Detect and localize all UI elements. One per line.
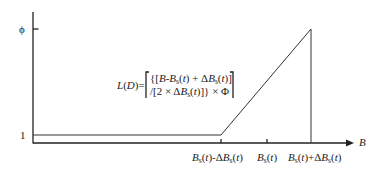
x-tick-label-lower: Bs(t)-ΔBs(t) bbox=[192, 151, 243, 165]
x-tick-label-upper: Bs(t)+ΔBs(t) bbox=[288, 151, 342, 165]
formula-lhs: L(D)= bbox=[116, 79, 145, 92]
y-tick-label-one: 1 bbox=[20, 129, 26, 141]
formula-line-numerator: {[B-Bs(t) + ΔBs(t)] bbox=[150, 72, 232, 86]
x-axis-arrow-icon bbox=[346, 140, 354, 147]
x-tick-label-center: Bs(t) bbox=[257, 151, 277, 165]
x-axis-label: B bbox=[359, 136, 366, 148]
formula-left-bracket bbox=[146, 72, 149, 98]
y-tick-label-phi: ϕ bbox=[19, 23, 25, 35]
formula-annotation: L(D)= {[B-Bs(t) + ΔBs(t)] /[2 × ΔBs(t)]}… bbox=[116, 72, 233, 99]
formula-line-denominator: /[2 × ΔBs(t)]} × Φ bbox=[150, 85, 229, 99]
membership-function-chart: ϕ 1 B Bs(t)-ΔBs(t) Bs(t) Bs(t)+ΔBs(t) L(… bbox=[0, 0, 381, 178]
